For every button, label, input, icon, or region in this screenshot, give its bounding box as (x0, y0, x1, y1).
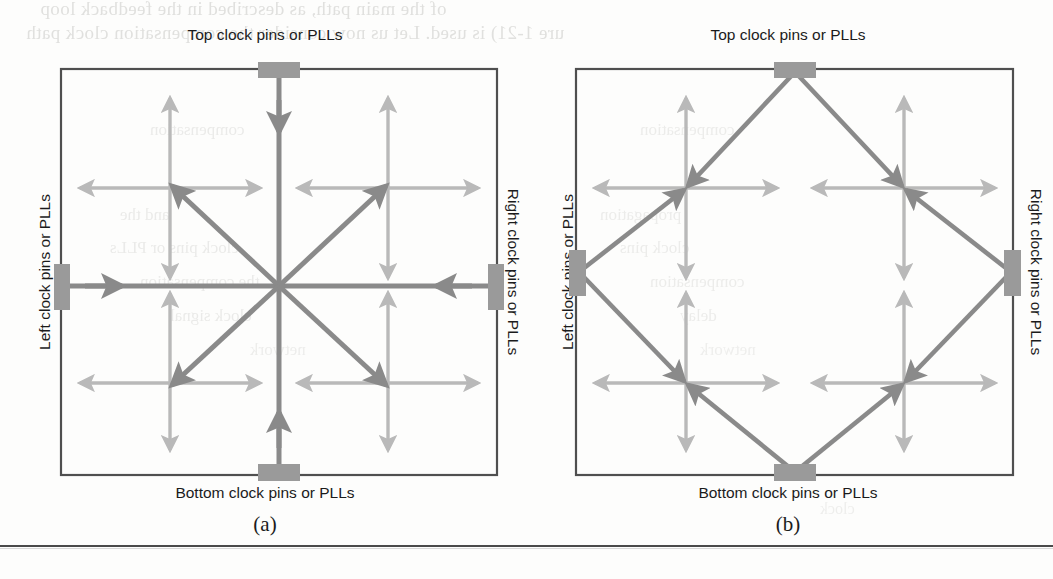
panel-a-top-pin-block (258, 62, 300, 78)
figure-panel-a: Top clock pins or PLLs Bottom clock pins… (0, 0, 530, 579)
figure-page: of the main path, as described in the fe… (0, 0, 1053, 579)
panel-a-left-pin-block (54, 264, 70, 310)
panel-a-right-pin-block (488, 264, 504, 310)
diagonal-arrow-down-right (279, 286, 386, 385)
panel-b-device-outline (576, 69, 1013, 475)
diamond-edge-top-to-topright (795, 72, 902, 186)
panel-b-caption: (b) (776, 512, 801, 537)
panel-b-diagram (523, 0, 1053, 579)
panel-b-right-pin-block (1004, 250, 1021, 296)
panel-b-top-pin-block (774, 62, 816, 78)
panel-b-bottom-pin-block (774, 464, 816, 481)
diagonal-arrow-down-left (172, 286, 279, 385)
panel-a-caption: (a) (253, 512, 276, 537)
diamond-edge-left-to-bottomleft (579, 272, 684, 381)
panel-a-bottom-pin-block (258, 464, 300, 481)
panel-a-trunk-network (63, 72, 495, 472)
diamond-edge-bottom-to-bottomleft (688, 385, 795, 472)
diagonal-arrow-up-left (172, 186, 279, 286)
diamond-edge-top-to-topleft (688, 72, 795, 186)
panel-a-diagram (0, 0, 530, 579)
diamond-edge-right-to-bottomright (906, 272, 1011, 381)
panel-b-branch-network (595, 98, 995, 450)
diamond-edge-right-to-topright (906, 190, 1011, 272)
figure-panel-b: Top clock pins or PLLs Bottom clock pins… (523, 0, 1053, 579)
diagonal-arrow-up-right (279, 186, 386, 286)
diamond-edge-bottom-to-bottomright (795, 385, 902, 472)
panel-b-left-pin-block (569, 250, 586, 296)
page-footer-rule (0, 545, 1053, 547)
diamond-edge-left-to-topleft (579, 190, 684, 272)
panel-b-diamond-network (579, 72, 1011, 472)
